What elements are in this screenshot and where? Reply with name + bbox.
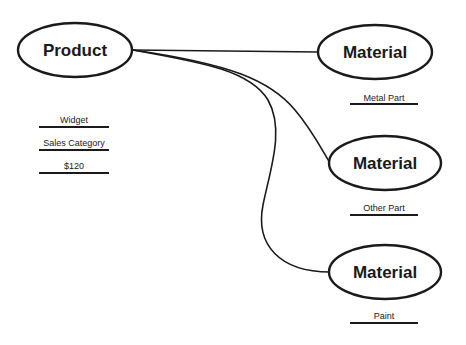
attribute-widget[interactable]: Widget [39,115,109,127]
entity-material-1[interactable]: Material [318,25,432,79]
relationship-connectors [133,50,330,272]
attribute-label: Widget [60,115,89,125]
connector-product-material-2[interactable] [133,50,330,163]
attribute-label: Metal Part [363,93,405,103]
material-label: Material [353,154,417,173]
attribute-price[interactable]: $120 [39,161,109,173]
attribute-paint[interactable]: Paint [350,311,418,323]
connector-product-material-1[interactable] [133,50,318,52]
connector-product-material-3[interactable] [133,50,330,272]
er-diagram-canvas: Product Widget Sales Category $120 Mater… [0,0,466,345]
attribute-metal-part[interactable]: Metal Part [350,93,418,104]
entity-product[interactable]: Product [18,23,132,77]
attribute-label: Paint [374,311,395,321]
material-label: Material [343,43,407,62]
product-label: Product [43,41,108,60]
material-label: Material [353,263,417,282]
entity-material-2[interactable]: Material [329,136,441,190]
attribute-label: Sales Category [43,138,105,148]
attribute-sales-category[interactable]: Sales Category [39,138,109,150]
product-attributes: Widget Sales Category $120 [39,115,109,173]
entity-material-3[interactable]: Material [329,245,441,299]
attribute-other-part[interactable]: Other Part [350,203,418,215]
attribute-label: Other Part [363,203,405,213]
attribute-label: $120 [64,161,84,171]
